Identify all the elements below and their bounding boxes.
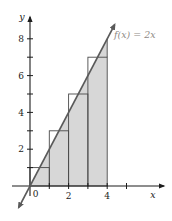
y-tick-label: 4 bbox=[18, 108, 24, 118]
function-label: f(x) = 2x bbox=[113, 29, 156, 40]
y-tick-label: 2 bbox=[18, 144, 24, 154]
chart-canvas: 2468240xyf(x) = 2x bbox=[0, 0, 172, 221]
x-axis-label: x bbox=[150, 189, 156, 200]
y-axis-label: y bbox=[18, 11, 25, 22]
x-tick-label: 4 bbox=[104, 191, 110, 201]
origin-label: 0 bbox=[33, 189, 39, 199]
x-tick-label: 2 bbox=[66, 191, 72, 201]
y-tick-label: 6 bbox=[18, 71, 24, 81]
y-tick-label: 8 bbox=[18, 34, 24, 44]
riemann-sum-figure: 2468240xyf(x) = 2x bbox=[0, 0, 172, 221]
